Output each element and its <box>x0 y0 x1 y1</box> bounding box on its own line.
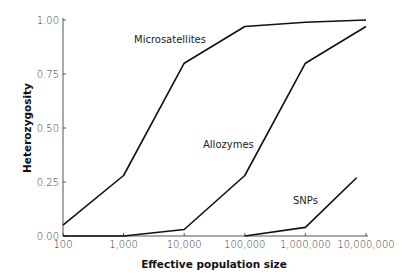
x-tick-label: 100 <box>53 239 72 250</box>
line-chart: 0.000.250.500.751.001001,00010,000100,00… <box>0 0 405 278</box>
y-tick-label: 0.50 <box>37 123 59 134</box>
x-tick-label: 1,000,000 <box>280 239 331 250</box>
x-axis-title: Effective population size <box>141 258 287 270</box>
y-axis-title: Heterozygosity <box>21 83 33 173</box>
series-label-allozymes: Allozymes <box>203 139 254 150</box>
x-tick-label: 10,000,000 <box>337 239 394 250</box>
series-line-microsatellites <box>63 20 366 225</box>
y-tick-label: 1.00 <box>37 15 59 26</box>
series-line-snps <box>245 178 357 236</box>
x-tick-label: 100,000 <box>224 239 265 250</box>
axes: 0.000.250.500.751.001001,00010,000100,00… <box>37 15 395 251</box>
x-tick-label: 10,000 <box>167 239 202 250</box>
series-lines <box>63 20 366 236</box>
series-label-snps: SNPs <box>293 195 318 206</box>
series-line-allozymes <box>63 27 366 237</box>
series-label-microsatellites: Microsatellites <box>134 34 206 45</box>
y-tick-label: 0.75 <box>37 69 59 80</box>
y-tick-label: 0.25 <box>37 177 59 188</box>
x-tick-label: 1,000 <box>109 239 138 250</box>
